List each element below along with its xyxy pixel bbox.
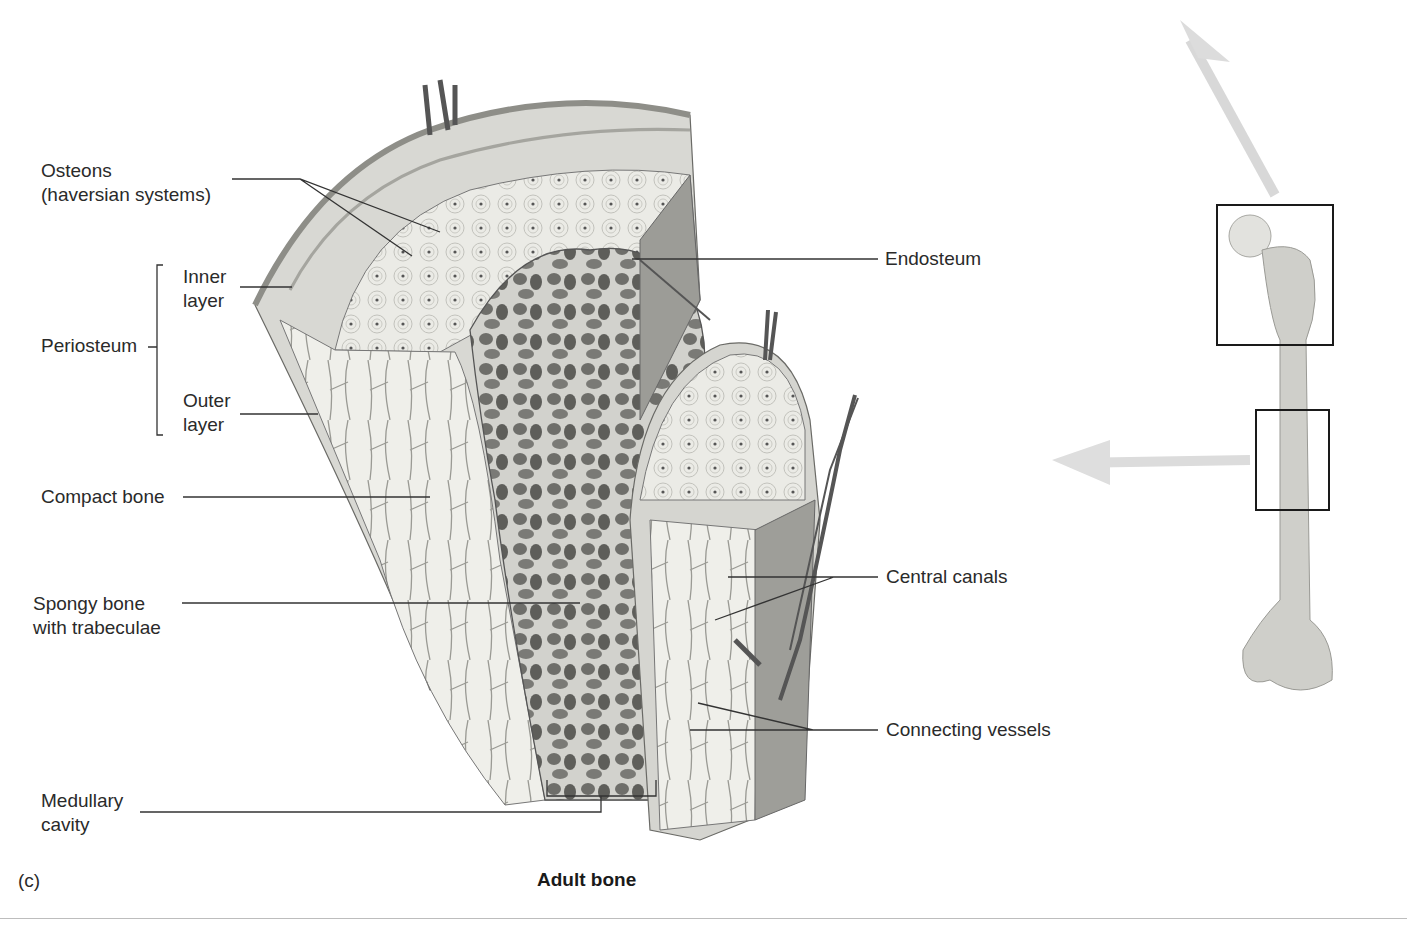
- divider: [0, 918, 1407, 919]
- label-spongy-bone: Spongy bone with trabeculae: [33, 592, 161, 640]
- bone-illustration: [0, 0, 1407, 934]
- bone-lower-segment: [630, 343, 820, 840]
- label-compact-bone: Compact bone: [41, 485, 165, 509]
- label-inner-layer: Inner layer: [183, 265, 226, 313]
- figure-caption: Adult bone: [537, 869, 636, 891]
- bone-cross-section: [255, 103, 705, 805]
- femur-inset: [1052, 20, 1333, 690]
- label-osteons: Osteons (haversian systems): [41, 159, 211, 207]
- label-central-canals: Central canals: [886, 565, 1007, 589]
- label-endosteum: Endosteum: [885, 247, 981, 271]
- label-connecting-vessels: Connecting vessels: [886, 718, 1051, 742]
- label-periosteum: Periosteum: [41, 334, 137, 358]
- panel-letter: (c): [18, 869, 40, 893]
- label-medullary-cavity: Medullary cavity: [41, 789, 123, 837]
- label-outer-layer: Outer layer: [183, 389, 231, 437]
